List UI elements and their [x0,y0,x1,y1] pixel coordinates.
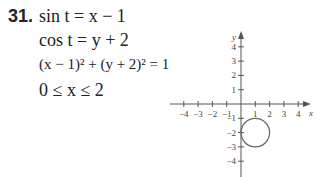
x-tick-label: 3 [282,109,287,119]
circle-curve [241,118,270,147]
y-tick-label: 3 [232,56,237,66]
x-tick-label: −2 [208,109,218,119]
x-tick-label: 1 [253,109,258,119]
y-tick-label: −4 [226,156,236,166]
y-axis-arrow-icon [238,31,244,39]
y-tick-label: −2 [226,128,236,138]
x-axis-label: x [308,108,313,118]
x-tick-label: −3 [193,109,203,119]
y-tick-label: −3 [226,142,236,152]
y-tick-label: 2 [232,70,237,80]
y-tick-label: −1 [226,113,236,123]
y-tick-label: 1 [232,85,237,95]
x-tick-label: −4 [179,109,189,119]
graph: −4−3−2−11234 4321−1−2−3−4 x y [0,0,319,177]
y-tick-label: 4 [232,42,237,52]
x-tick-labels: −4−3−2−11234 [179,109,301,119]
x-tick-label: 4 [296,109,301,119]
y-axis-label: y [231,32,236,42]
x-tick-label: 2 [267,109,272,119]
x-axis-arrow-icon [303,101,311,107]
